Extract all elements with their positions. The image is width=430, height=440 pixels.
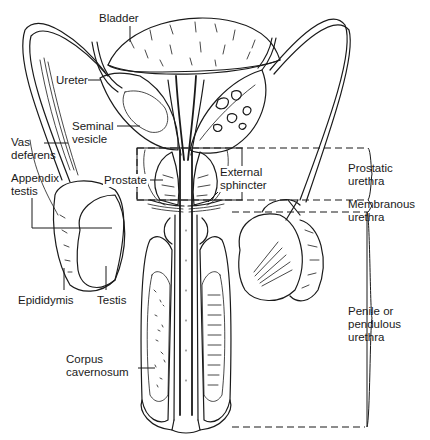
label-ureter: Ureter: [56, 74, 88, 87]
bladder-shape: [108, 18, 280, 74]
label-epididymis: Epididymis: [18, 294, 74, 307]
label-seminal-vesicle: Seminal vesicle: [72, 120, 114, 146]
label-prostatic-urethra: Prostatic urethra: [348, 162, 393, 188]
label-appendix-testis: Appendix testis: [11, 172, 59, 198]
seminal-vesicle-right: [190, 70, 266, 153]
label-corpus-cavernosum: Corpus cavernosum: [66, 353, 129, 379]
label-external-sphincter: External sphincter: [219, 166, 268, 192]
penile-region-box: [232, 212, 367, 427]
prostate-shape: [144, 150, 229, 205]
right-spermatic-cord: [270, 19, 350, 220]
label-testis: Testis: [97, 294, 126, 307]
urethra-braces: [367, 148, 372, 427]
label-bladder: Bladder: [99, 12, 139, 25]
label-membranous-urethra: Membranous urethra: [348, 198, 415, 224]
label-penile-urethra: Penile or pendulous urethra: [348, 305, 401, 344]
right-testis-shape: [239, 200, 323, 301]
label-vas-deferens: Vas deferens: [11, 136, 56, 162]
central-ducts: [168, 76, 204, 160]
label-prostate: Prostate: [103, 174, 148, 187]
